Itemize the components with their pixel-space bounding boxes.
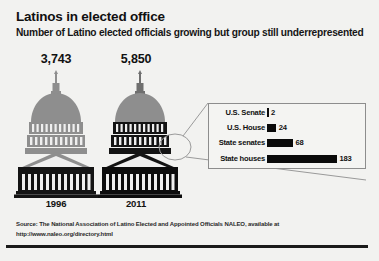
source-url: http://www.naleo.org/directory.html [16, 229, 279, 239]
capitol-value-1996: 3,743 [26, 52, 86, 66]
bar-fill [267, 155, 337, 163]
bar-chart-callout: U.S. Senate 2 U.S. House 24 State senate… [208, 103, 366, 169]
capitol-year-1996: 1996 [26, 198, 86, 209]
page-title: Latinos in elected office [16, 9, 165, 24]
source-line-1: Source: The National Association of Lati… [16, 219, 279, 229]
bar-track: 68 [267, 136, 365, 149]
bar-value: 24 [279, 123, 287, 132]
bar-value: 68 [296, 138, 304, 147]
capitol-icon-gray [14, 70, 98, 198]
bar-label: U.S. House [209, 123, 267, 132]
bottom-divider [6, 245, 368, 248]
bar-fill [267, 108, 269, 117]
page-subtitle: Number of Latino elected officials growi… [16, 27, 363, 38]
bar-fill [267, 124, 276, 132]
bar-label: State senates [209, 138, 267, 147]
bar-label: U.S. Senate [209, 108, 267, 117]
bar-fill [267, 139, 293, 147]
bar-row-us-senate: U.S. Senate 2 [209, 106, 365, 119]
bar-value: 183 [340, 154, 352, 163]
bar-track: 24 [267, 121, 365, 134]
infographic-panel: Latinos in elected office Number of Lati… [0, 0, 379, 261]
source-attribution: Source: The National Association of Lati… [16, 219, 279, 239]
bar-track: 2 [267, 106, 365, 119]
bar-row-state-senates: State senates 68 [209, 136, 365, 149]
capitol-value-2011: 5,850 [106, 52, 166, 66]
bar-row-state-houses: State houses 183 [209, 152, 365, 165]
bar-row-us-house: U.S. House 24 [209, 121, 365, 134]
bar-value: 2 [271, 108, 275, 117]
bar-label: State houses [209, 154, 267, 163]
bar-track: 183 [267, 152, 365, 165]
